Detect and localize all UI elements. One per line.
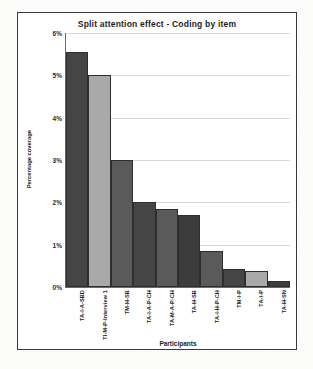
y-tick-label: 2% bbox=[53, 199, 62, 206]
bar bbox=[223, 269, 245, 287]
y-tick-label: 1% bbox=[53, 241, 62, 248]
x-tick-label: TA-I-H-P-CH bbox=[214, 290, 220, 323]
x-tick-label: TM-H-SB bbox=[124, 290, 130, 314]
gridline bbox=[66, 287, 290, 288]
x-tick-label: TA-I-A-P-CH bbox=[146, 290, 152, 323]
bar bbox=[245, 271, 267, 287]
x-tick-label: TA-I-A-SBD bbox=[79, 290, 85, 321]
bar bbox=[66, 52, 88, 287]
chart-title: Split attention effect - Coding by item bbox=[18, 19, 296, 29]
y-tick-label: 0% bbox=[53, 284, 62, 291]
bar-series bbox=[66, 33, 290, 287]
y-tick-label: 4% bbox=[53, 114, 62, 121]
x-tick-label: TA-H-SN bbox=[281, 290, 287, 313]
y-tick-label: 3% bbox=[53, 157, 62, 164]
bar bbox=[156, 209, 178, 287]
x-tick-label: TA-I-P bbox=[258, 290, 264, 307]
scanned-page: Split attention effect - Coding by item … bbox=[0, 0, 313, 369]
x-axis-title: Participants bbox=[66, 340, 290, 347]
bar bbox=[133, 202, 155, 287]
bar bbox=[111, 160, 133, 287]
plot-area: 6%5%4%3%2%1%0% bbox=[66, 33, 290, 287]
x-tick-label: TA-M-A-P-CH bbox=[169, 290, 175, 326]
bar bbox=[268, 281, 290, 287]
x-tick-label: TM-I-P bbox=[236, 290, 242, 308]
x-tick-label: TA-H-SB bbox=[191, 290, 197, 313]
y-tick-label: 5% bbox=[53, 72, 62, 79]
y-tick-label: 6% bbox=[53, 30, 62, 37]
bar bbox=[200, 251, 222, 287]
bar bbox=[88, 75, 110, 287]
bar bbox=[178, 215, 200, 287]
y-axis-title: Percentage coverage bbox=[26, 130, 32, 188]
x-tick-label: TI-M-P-Interview 1 bbox=[102, 290, 108, 340]
